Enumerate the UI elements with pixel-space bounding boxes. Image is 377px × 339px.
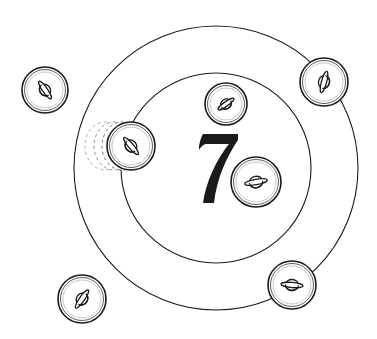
coin-top-left-outside[interactable] [22, 67, 68, 113]
coin-center-right[interactable] [231, 157, 281, 207]
coin-bottom-right-ring[interactable] [268, 261, 316, 309]
coin-bottom-left-outside[interactable] [58, 275, 106, 323]
coin-top-inner[interactable] [205, 83, 247, 125]
number-seven: 7 [199, 134, 238, 203]
center-number: 7 [199, 134, 238, 203]
game-board: 7 [0, 0, 377, 339]
coins-layer [22, 58, 348, 323]
coin-left-moving[interactable] [107, 122, 155, 170]
coin-top-right-ring[interactable] [300, 58, 348, 106]
